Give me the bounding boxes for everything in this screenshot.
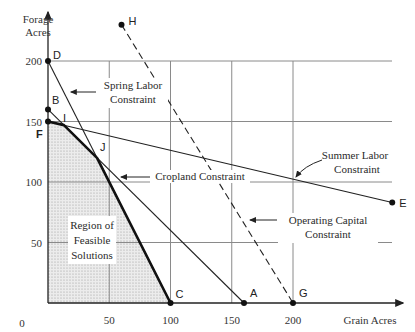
point-label-d: D bbox=[53, 49, 61, 61]
region-label: Solutions bbox=[71, 249, 113, 261]
operating-capital-label: Constraint bbox=[305, 228, 351, 240]
spring-labor-label: Constraint bbox=[110, 93, 156, 105]
summer-labor-label: Summer Labor bbox=[322, 149, 389, 161]
operating-capital-label: Operating Capital bbox=[289, 214, 368, 226]
point-label-j: J bbox=[100, 141, 106, 153]
summer-labor-arrow bbox=[296, 160, 322, 177]
y-axis-label: Forage bbox=[23, 13, 54, 25]
y-tick-label: 200 bbox=[26, 55, 43, 67]
point-b bbox=[45, 106, 51, 112]
x-axis-label: Grain Acres bbox=[344, 314, 397, 326]
x-tick-label: 100 bbox=[162, 314, 179, 326]
point-f bbox=[45, 119, 51, 125]
y-tick-label: 150 bbox=[26, 116, 43, 128]
point-a bbox=[241, 300, 247, 306]
point-g bbox=[290, 300, 296, 306]
x-tick-label: 150 bbox=[224, 314, 241, 326]
x-tick-label: 200 bbox=[285, 314, 302, 326]
point-label-g: G bbox=[299, 287, 308, 299]
point-label-b: B bbox=[52, 94, 59, 106]
spring-labor-label: Spring Labor bbox=[104, 79, 163, 91]
x-tick-label: 0 bbox=[19, 317, 25, 329]
y-tick-label: 100 bbox=[26, 176, 43, 188]
point-d bbox=[45, 58, 51, 64]
point-label-f: F bbox=[36, 128, 43, 140]
y-axis-label: Acres bbox=[25, 26, 51, 38]
region-label: Region of bbox=[70, 219, 114, 231]
point-label-e: E bbox=[399, 197, 406, 209]
region-label: Feasible bbox=[74, 234, 111, 246]
y-tick-label: 50 bbox=[31, 237, 43, 249]
cropland-label: Cropland Constraint bbox=[155, 170, 245, 182]
summer-labor-label: Constraint bbox=[334, 163, 380, 175]
point-e bbox=[389, 200, 395, 206]
point-label-i: I bbox=[63, 112, 66, 124]
linear-programming-chart: 05010015020050100150200Grain AcresForage… bbox=[0, 0, 415, 332]
point-c bbox=[168, 300, 174, 306]
point-label-h: H bbox=[129, 15, 137, 27]
point-label-c: C bbox=[176, 288, 184, 300]
x-tick-label: 50 bbox=[104, 314, 116, 326]
point-h bbox=[119, 22, 125, 28]
point-label-a: A bbox=[250, 287, 258, 299]
